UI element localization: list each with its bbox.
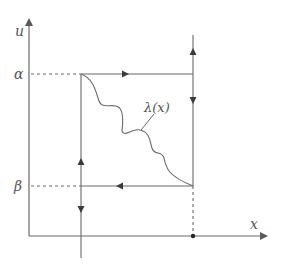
lambda-label: λ(x) [143,100,170,115]
dashed-guides [31,74,193,236]
arrow-left-icon [116,183,123,190]
trajectories [81,35,193,258]
arrow-up-icon [190,48,197,55]
beta-label: β [13,178,22,194]
flow-arrows [78,48,197,213]
arrow-down-icon [190,97,197,104]
axes [29,20,266,236]
lambda-pointer [141,114,154,130]
lambda-curve [81,74,193,186]
arrow-down-icon [78,206,85,213]
arrow-up-icon [78,158,85,165]
alpha-label: α [14,66,24,82]
phase-diagram: u x α β λ(x) [0,0,285,265]
x-point-marker [191,234,195,238]
arrow-right-icon [122,71,129,78]
x-axis-label: x [250,216,258,232]
y-axis-label: u [15,23,24,39]
